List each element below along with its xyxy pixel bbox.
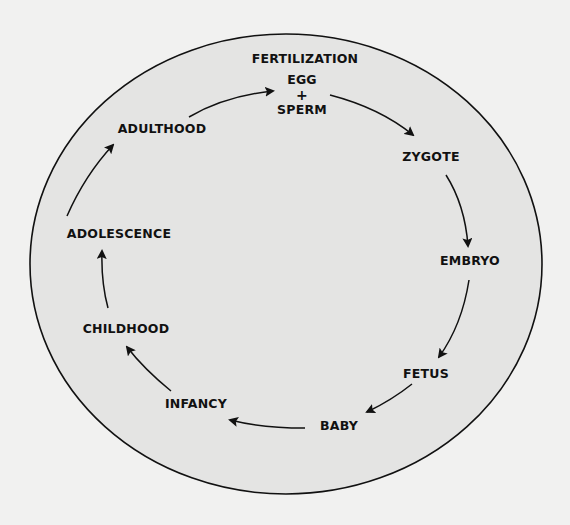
stage-childhood: CHILDHOOD <box>83 323 170 336</box>
stage-adulthood: ADULTHOOD <box>118 123 207 136</box>
stage-fetus: FETUS <box>403 368 449 381</box>
stage-infancy: INFANCY <box>165 398 227 411</box>
stage-zygote: ZYGOTE <box>402 151 459 164</box>
stage-sperm: SPERM <box>277 104 327 117</box>
stage-egg: EGG <box>287 74 317 87</box>
stage-adolescence: ADOLESCENCE <box>67 228 171 241</box>
stage-baby: BABY <box>320 420 358 433</box>
plus-sign: + <box>296 88 308 102</box>
stage-embryo: EMBRYO <box>440 255 500 268</box>
stage-fertilization: FERTILIZATION <box>252 53 359 66</box>
